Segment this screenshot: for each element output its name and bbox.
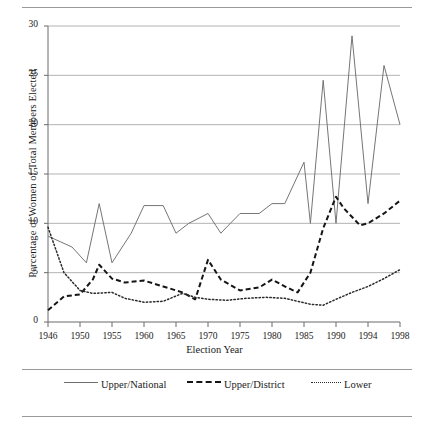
legend-item-upper-national: Upper/National <box>64 379 166 390</box>
x-tick-label: 1950 <box>63 331 97 341</box>
legend-top-rule <box>22 369 412 370</box>
chart-svg <box>0 12 429 332</box>
x-axis-title: Election Year <box>0 344 429 355</box>
x-tick-label: 1975 <box>223 331 257 341</box>
top-rule <box>22 7 412 8</box>
y-tick-marks <box>44 26 48 322</box>
legend-swatch-dashed-icon <box>187 381 221 388</box>
x-tick-label: 1946 <box>31 331 65 341</box>
y-axis-title: Percentage of Women of Total Members Ele… <box>27 44 38 304</box>
gridlines <box>48 26 400 273</box>
x-tick-label: 1985 <box>287 331 321 341</box>
legend-item-upper-district: Upper/District <box>187 379 285 390</box>
x-tick-label: 1970 <box>191 331 225 341</box>
x-tick-label: 1990 <box>319 331 353 341</box>
data-series-layer <box>48 36 400 310</box>
bottom-rule <box>22 416 412 417</box>
x-tick-label: 1965 <box>159 331 193 341</box>
legend-swatch-solid-icon <box>64 382 98 388</box>
chart-legend: Upper/National Upper/District Lower <box>0 377 429 407</box>
legend-label-upper-national: Upper/National <box>101 379 166 390</box>
x-tick-label: 1960 <box>127 331 161 341</box>
x-tick-label: 1955 <box>95 331 129 341</box>
legend-label-lower: Lower <box>344 379 371 390</box>
legend-label-upper-district: Upper/District <box>224 379 285 390</box>
series-line-upper-national <box>48 36 400 263</box>
legend-swatch-dotted-icon <box>311 382 341 388</box>
figure: 051015202530 194619501955196019651970197… <box>0 0 429 428</box>
x-tick-label: 1994 <box>351 331 385 341</box>
plot-area: 051015202530 <box>0 12 429 332</box>
x-tick-label: 1998 <box>383 331 417 341</box>
y-tick-label: 30 <box>16 19 38 29</box>
x-tick-label: 1980 <box>255 331 289 341</box>
legend-item-lower: Lower <box>307 379 371 390</box>
y-tick-label: 0 <box>16 315 38 325</box>
x-tick-marks <box>48 322 400 327</box>
